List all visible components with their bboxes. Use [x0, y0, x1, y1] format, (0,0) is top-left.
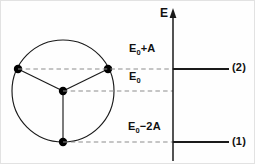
- diagram-canvas: [1, 1, 255, 164]
- state-label-lower: (1): [232, 136, 246, 147]
- energy-label-reference-subscript: 0: [137, 76, 141, 85]
- energy-label-lower-subscript: 0: [136, 126, 140, 135]
- energy-label-upper-tail: +A: [141, 42, 156, 54]
- bond-center-right: [63, 69, 108, 91]
- energy-label-upper-main: E: [129, 42, 137, 54]
- energy-axis-label: E: [160, 7, 168, 19]
- energy-label-reference: E0: [129, 71, 141, 82]
- bond-center-left: [18, 69, 63, 91]
- energy-label-lower-tail: −2A: [140, 120, 161, 132]
- energy-label-reference-main: E: [129, 70, 137, 82]
- energy-level-figure: E0+A E0 E0−2A (2) (1) E: [0, 0, 255, 164]
- state-label-upper: (2): [232, 62, 246, 73]
- energy-label-lower: E0−2A: [128, 121, 161, 132]
- energy-levels: [173, 69, 229, 142]
- energy-axis-arrow-icon: [170, 8, 177, 18]
- energy-label-upper: E0+A: [129, 43, 156, 54]
- molecule-group: [12, 40, 114, 146]
- energy-label-upper-subscript: 0: [137, 48, 141, 57]
- energy-axis-group: [170, 8, 177, 161]
- energy-label-lower-main: E: [128, 120, 136, 132]
